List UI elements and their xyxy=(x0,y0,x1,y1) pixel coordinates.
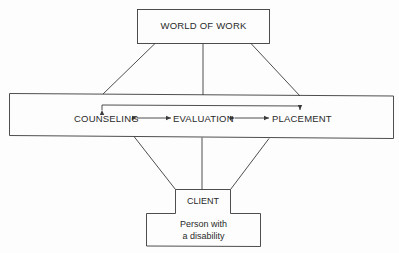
world-of-work-label: WORLD OF WORK xyxy=(137,21,270,31)
diagram-canvas: WORLD OF WORK COUNSELING EVALUATION PLAC… xyxy=(0,0,399,253)
counseling-label: COUNSELING xyxy=(74,114,139,124)
client-description-line1: Person with xyxy=(146,218,261,230)
connector-lines xyxy=(0,0,399,253)
placement-label: PLACEMENT xyxy=(272,114,332,124)
client-description: Person with a disability xyxy=(146,218,261,242)
client-description-line2: a disability xyxy=(146,230,261,242)
client-label: CLIENT xyxy=(175,197,231,206)
evaluation-label: EVALUATION xyxy=(173,114,234,124)
